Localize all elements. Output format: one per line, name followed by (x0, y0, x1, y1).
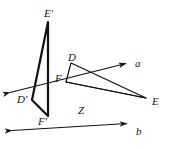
axis-line-b (12, 124, 127, 131)
label-f-prime: F' (38, 116, 47, 127)
figure-canvas (0, 0, 169, 149)
ray-f-to-e (66, 82, 146, 98)
label-e-prime: E' (44, 8, 53, 19)
label-d-prime: D' (17, 94, 27, 105)
label-e: E (152, 96, 159, 107)
axis-line-a (10, 64, 126, 93)
label-d: D (68, 52, 76, 63)
label-f: F (55, 73, 62, 84)
triangle-image-d-e-f-prime (32, 22, 48, 116)
label-axis-b: b (136, 126, 142, 137)
label-z: Z (78, 105, 84, 116)
label-axis-a: a (135, 58, 141, 69)
geometry-figure: E' D F a E D' Z F' b (0, 0, 169, 149)
